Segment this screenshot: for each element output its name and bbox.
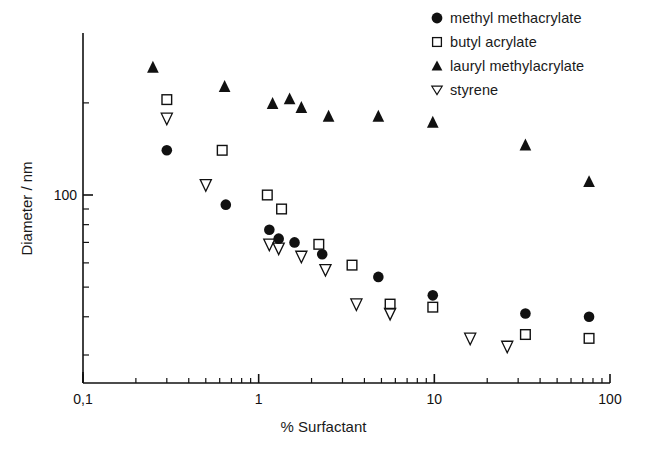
data-point — [147, 61, 159, 73]
data-point — [584, 311, 595, 322]
x-axis-tick-label: 0,1 — [73, 391, 93, 407]
x-axis-tick-label: 1 — [255, 391, 263, 407]
data-point — [502, 341, 513, 353]
data-point — [273, 243, 284, 255]
data-point — [264, 224, 275, 235]
data-point — [296, 251, 307, 263]
filled-triangle-up-icon — [424, 57, 450, 75]
x-axis-tick-label: 100 — [598, 391, 622, 407]
series-butyl-acrylate — [162, 95, 594, 343]
data-point — [219, 80, 231, 92]
chart-legend: methyl methacrylate butyl acrylate laury… — [424, 6, 644, 102]
x-axis-title: % Surfactant — [0, 418, 647, 435]
data-point — [264, 239, 275, 251]
data-point — [428, 302, 438, 312]
data-point — [221, 199, 232, 210]
data-point — [521, 330, 531, 340]
x-axis-tick-label: 10 — [427, 391, 443, 407]
legend-item: butyl acrylate — [424, 30, 644, 54]
data-point — [277, 204, 287, 214]
data-point — [323, 110, 335, 122]
data-point — [351, 299, 362, 311]
data-point — [161, 113, 172, 125]
legend-item: lauryl methylacrylate — [424, 54, 644, 78]
data-point — [373, 110, 385, 122]
data-point — [373, 272, 384, 283]
data-point — [520, 138, 532, 150]
open-triangle-down-icon — [424, 81, 450, 99]
y-axis-tick-label: 100 — [54, 187, 78, 203]
data-point — [200, 180, 211, 192]
series-styrene — [161, 113, 513, 353]
data-point — [296, 101, 308, 113]
data-point — [217, 145, 227, 155]
legend-item-label: butyl acrylate — [450, 34, 537, 50]
legend-item-label: styrene — [450, 82, 498, 98]
data-point — [162, 95, 172, 105]
y-axis-title: Diameter / nm — [18, 109, 35, 309]
data-point — [289, 237, 300, 248]
data-point — [385, 299, 395, 309]
data-point — [314, 239, 324, 249]
series-methyl-methacrylate — [162, 145, 595, 322]
open-square-icon — [424, 33, 450, 51]
data-point — [320, 265, 331, 277]
data-point — [583, 175, 595, 187]
data-point — [317, 249, 328, 260]
data-point — [584, 334, 594, 344]
data-point — [427, 290, 438, 301]
filled-circle-icon — [424, 9, 450, 27]
data-point — [465, 333, 476, 345]
data-point — [385, 308, 396, 320]
legend-item: methyl methacrylate — [424, 6, 644, 30]
data-point — [267, 97, 279, 109]
legend-item-label: methyl methacrylate — [450, 10, 582, 26]
chart-figure: 0,1110100100 Diameter / nm % Surfactant … — [0, 0, 647, 451]
data-point — [520, 308, 531, 319]
legend-item-label: lauryl methylacrylate — [450, 58, 584, 74]
legend-item: styrene — [424, 78, 644, 102]
data-point — [262, 190, 272, 200]
data-point — [284, 92, 296, 104]
data-point — [347, 260, 357, 270]
data-point — [162, 145, 173, 156]
data-point — [427, 116, 439, 128]
